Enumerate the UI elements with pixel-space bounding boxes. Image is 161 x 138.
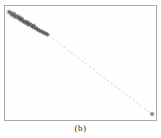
scatter-marker [46, 33, 50, 37]
figure-caption: (b) [0, 123, 161, 134]
plot-frame [4, 5, 157, 121]
scatter-plot-svg [5, 6, 156, 120]
scatter-figure-panel: (b) [0, 0, 161, 138]
reference-line [49, 36, 151, 114]
scatter-marker [150, 112, 154, 116]
